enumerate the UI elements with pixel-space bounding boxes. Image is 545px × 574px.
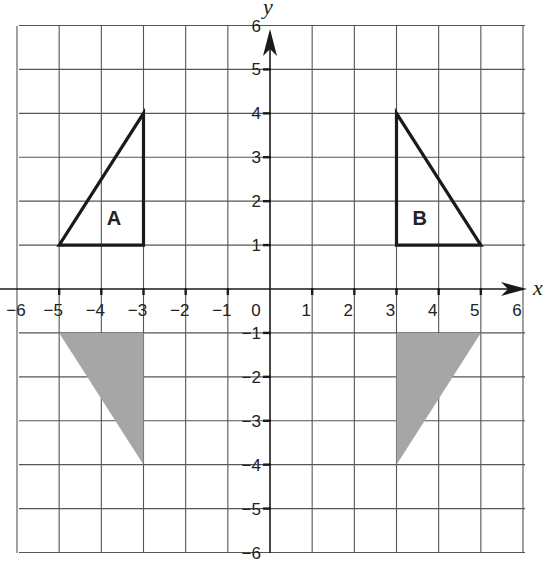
y-tick-label: 6 xyxy=(252,17,261,36)
grid-canvas: x y −6−5−4−3−2−10123456654321−1−2−3−4−5−… xyxy=(0,0,545,574)
x-tick-label: 4 xyxy=(428,301,437,320)
x-tick-label: 2 xyxy=(344,301,353,320)
y-tick-label: −4 xyxy=(242,456,261,475)
x-tick-label: 3 xyxy=(386,301,395,320)
y-axis-label: y xyxy=(261,0,273,19)
y-tick-label: −1 xyxy=(242,324,261,343)
y-tick-label: −2 xyxy=(242,368,261,387)
x-tick-label: 5 xyxy=(470,301,479,320)
x-tick-label: 0 xyxy=(251,301,260,320)
x-tick-label: −2 xyxy=(170,301,189,320)
x-tick-label: −6 xyxy=(6,301,25,320)
x-tick-label: −1 xyxy=(212,301,231,320)
y-tick-label: 2 xyxy=(252,192,261,211)
y-tick-label: 5 xyxy=(252,60,261,79)
y-tick-label: −5 xyxy=(242,500,261,519)
x-tick-label: −4 xyxy=(86,301,105,320)
x-tick-label: −5 xyxy=(43,301,62,320)
triangle-label-a: A xyxy=(107,207,121,229)
x-tick-label: 1 xyxy=(301,301,310,320)
y-tick-label: 1 xyxy=(252,236,261,255)
x-axis-label: x xyxy=(532,275,543,300)
y-tick-label: −6 xyxy=(242,544,261,563)
y-tick-label: 4 xyxy=(252,104,261,123)
y-tick-label: 3 xyxy=(252,148,261,167)
coordinate-grid-diagram: x y −6−5−4−3−2−10123456654321−1−2−3−4−5−… xyxy=(0,0,545,574)
x-tick-label: 6 xyxy=(512,301,521,320)
y-tick-label: −3 xyxy=(242,412,261,431)
axes: x y xyxy=(0,0,543,553)
triangle-label-b: B xyxy=(412,207,426,229)
x-tick-label: −3 xyxy=(128,301,147,320)
